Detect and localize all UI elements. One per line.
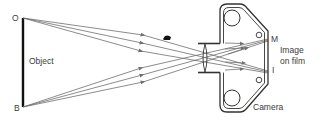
lower-film-spool: [224, 90, 240, 106]
lower-film-roller: [256, 77, 262, 83]
camera-optics-diagram: O B Object M I Image on film Camera: [0, 0, 323, 122]
label-camera: Camera: [253, 103, 283, 112]
label-image-on-film-line2: on film: [280, 57, 305, 66]
label-image-on-film-line1: Image: [280, 46, 304, 55]
upper-film-spool: [224, 10, 240, 26]
camera-body: [220, 4, 268, 112]
small-black-object-icon: [163, 36, 171, 41]
label-image-top-m: M: [271, 35, 278, 44]
upper-film-roller: [256, 32, 262, 38]
rays-from-bottom-point: [23, 39, 268, 107]
label-top-point-o: O: [12, 14, 19, 23]
label-object: Object: [29, 57, 54, 66]
label-bottom-point-b: B: [14, 104, 20, 113]
label-image-bottom-i: I: [272, 66, 274, 75]
